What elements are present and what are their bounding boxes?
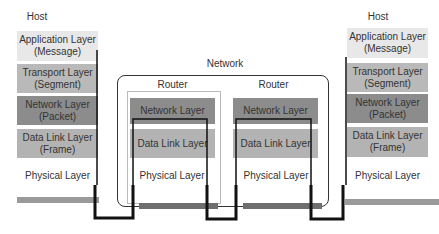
- data-path-line: [0, 0, 439, 234]
